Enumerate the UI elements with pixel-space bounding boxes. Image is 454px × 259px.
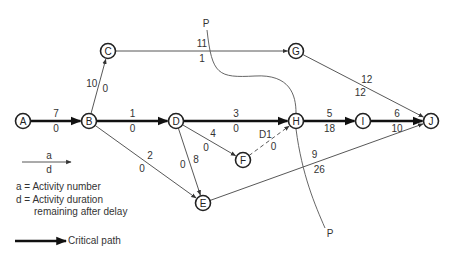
legend-critical-path-label: Critical path bbox=[68, 235, 121, 247]
edge-activity-label: 6 bbox=[394, 108, 400, 119]
edge-activity-label: 4 bbox=[210, 128, 216, 139]
edge-activity-label: 1 bbox=[130, 108, 136, 119]
node-label: A bbox=[20, 116, 27, 127]
edge-activity-label: 9 bbox=[312, 149, 318, 160]
node-F: F bbox=[236, 153, 251, 168]
node-H: H bbox=[289, 114, 304, 129]
edge-activity-label: 12 bbox=[361, 74, 373, 85]
edge-activity-label: 3 bbox=[233, 108, 239, 119]
edge-activity-label: 8 bbox=[193, 154, 199, 165]
edge-duration-label: 1 bbox=[199, 53, 205, 64]
node-label: D bbox=[172, 116, 179, 127]
node-label: B bbox=[86, 116, 93, 127]
edge-activity-label: 10 bbox=[86, 78, 98, 89]
node-C: C bbox=[101, 44, 116, 59]
node-A: A bbox=[16, 114, 31, 129]
node-E: E bbox=[196, 196, 211, 211]
node-J: J bbox=[424, 114, 439, 129]
edge-activity-label: D1 bbox=[259, 129, 272, 140]
node-label: J bbox=[429, 116, 434, 127]
edge-activity-label: 2 bbox=[147, 150, 153, 161]
legend-arrow-top-label: a bbox=[46, 150, 52, 161]
node-label: C bbox=[104, 46, 111, 57]
node-G: G bbox=[289, 44, 304, 59]
edge-activity-label: 11 bbox=[197, 38, 208, 49]
edge-duration-label: 0 bbox=[102, 83, 108, 94]
node-I: I bbox=[356, 114, 371, 129]
edge-duration-label: 0 bbox=[139, 163, 145, 174]
edge-G-J bbox=[303, 54, 424, 117]
legend-a-definition: a = Activity number bbox=[16, 181, 101, 193]
cut-line-top-label: P bbox=[203, 18, 210, 29]
edge-duration-label: 0 bbox=[53, 123, 59, 134]
edge-activity-label: 5 bbox=[327, 108, 333, 119]
edge-D-F bbox=[182, 125, 235, 156]
legend-d-definition-line2: remaining after delay bbox=[34, 206, 127, 218]
node-B: B bbox=[82, 114, 97, 129]
edge-duration-label: 0 bbox=[271, 141, 277, 152]
edge-duration-label: 10 bbox=[391, 123, 403, 134]
edge-duration-label: 18 bbox=[324, 123, 336, 134]
node-label: H bbox=[292, 116, 299, 127]
edge-duration-label: 0 bbox=[180, 159, 186, 170]
edge-duration-label: 0 bbox=[130, 123, 136, 134]
legend-d-definition-line1: d = Activity duration bbox=[16, 194, 103, 206]
edge-duration-label: 26 bbox=[314, 164, 326, 175]
legend-arrow-bottom-label: d bbox=[46, 164, 52, 175]
edge-activity-label: 7 bbox=[53, 108, 59, 119]
cut-line-bottom-label: P bbox=[327, 228, 334, 239]
node-label: G bbox=[292, 46, 300, 57]
node-D: D bbox=[169, 114, 184, 129]
edge-duration-label: 0 bbox=[203, 142, 209, 153]
edge-duration-label: 12 bbox=[355, 87, 367, 98]
node-label: E bbox=[200, 198, 207, 209]
node-label: I bbox=[362, 116, 365, 127]
network-diagram: 701001020111304080D101212518610926 P P A… bbox=[0, 0, 454, 259]
node-label: F bbox=[240, 155, 246, 166]
edge-duration-label: 0 bbox=[233, 123, 239, 134]
